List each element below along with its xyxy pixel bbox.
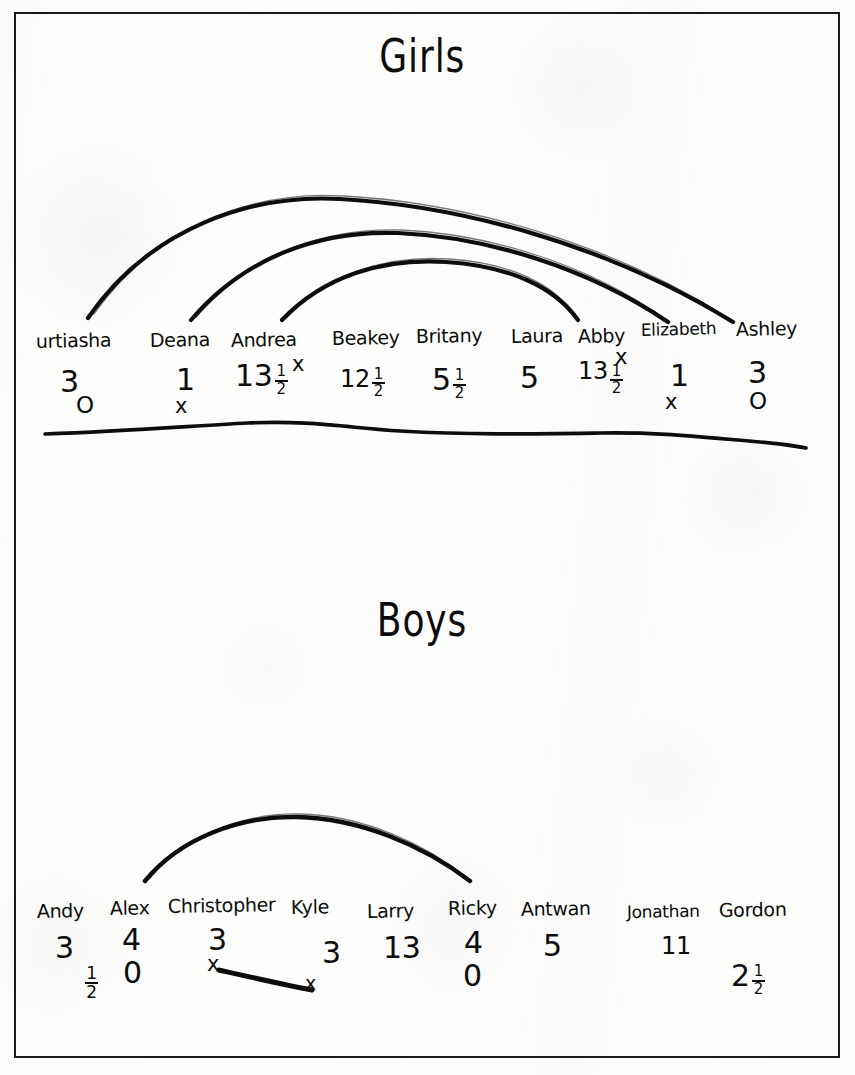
girls-frac-den-7: 2 [610,379,623,396]
boys-value-8-number: 11 [661,932,691,960]
girls-name-5: Britany [416,324,483,347]
girls-value-9-number: 3 [748,355,767,390]
girls-below-8: x [665,390,677,414]
worksheet-page: Girls urtiasha Deana Andrea Beakey Brita… [0,0,855,1075]
girls-value-6: 5 [520,360,539,395]
boys-value-2-number: 4 [122,922,141,957]
boys-name-1: Andy [37,899,85,922]
boys-frac-den-1: 2 [85,982,98,1001]
girls-name-8: Elizabeth [640,318,716,340]
boys-value-1: 3 [55,930,74,965]
boys-below-2: 0 [123,955,142,990]
boys-name-7: Antwan [521,897,591,920]
boys-mark-4: x [305,972,316,994]
boys-value-5: 13 [383,930,421,965]
boys-name-9: Gordon [719,898,787,921]
girls-value-8: 1 [670,358,689,393]
boys-value-8: 11 [661,932,691,960]
girls-frac-den-5: 2 [453,384,466,401]
girls-name-2: Deana [150,328,211,351]
girls-frac-num-5: 1 [455,368,464,383]
boys-value-7-number: 5 [543,928,562,963]
boys-name-4: Kyle [291,895,329,918]
girls-below-2: x [175,394,187,418]
boys-frac-den-9: 2 [752,980,765,997]
boys-value-2: 4 [122,922,141,957]
girls-value-4-number: 12 [340,365,370,393]
girls-name-3: Andrea [231,328,297,351]
boys-name-3: Christopher [168,893,276,917]
girls-value-8-number: 1 [670,358,689,393]
boys-frac-num-9: 1 [754,964,763,979]
boys-value-9: 212 [731,958,765,994]
girls-name-1: urtiasha [36,328,112,352]
boys-value-1-number: 3 [55,930,74,965]
girls-value-5-number: 5 [432,362,451,397]
boys-name-5: Larry [367,899,415,922]
girls-name-4: Beakey [332,326,400,349]
girls-name-9: Ashley [736,317,798,340]
boys-mark-3: x [207,952,219,976]
girls-below-9: O [749,388,767,414]
girls-name-7: Abby [578,324,626,347]
girls-value-4-fraction: 12 [372,367,385,400]
boys-section-title: Boys [377,593,467,646]
girls-value-3: 1312 [235,358,288,394]
girls-frac-den-3: 2 [275,380,288,397]
boys-value-1-fraction: 12 [83,962,98,999]
girls-section-title: Girls [379,29,465,82]
boys-frac-num-1: 1 [86,965,97,982]
boys-value-7: 5 [543,928,562,963]
girls-value-3-fraction: 12 [275,364,288,397]
girls-below-1: O [76,392,94,418]
girls-value-2: 1 [176,362,195,397]
girls-value-5-fraction: 12 [453,368,466,401]
girls-frac-num-4: 1 [374,367,383,382]
boys-name-2: Alex [110,896,150,919]
girls-value-9: 3 [748,355,767,390]
girls-frac-num-3: 1 [276,364,285,379]
girls-value-5: 512 [432,362,466,398]
girls-name-6: Laura [511,324,564,347]
boys-value-4: 3 [322,935,341,970]
boys-below-6: 0 [463,958,482,993]
girls-frac-den-4: 2 [372,382,385,399]
girls-value-2-number: 1 [176,362,195,397]
girls-mark-3: x [292,352,304,376]
girls-value-3-number: 13 [235,358,273,393]
girls-mark-7: x [615,345,627,369]
boys-value-6-number: 4 [464,925,483,960]
boys-value-9-number: 2 [731,958,750,993]
boys-value-6: 4 [464,925,483,960]
boys-frac-1: 12 [85,965,98,1002]
boys-name-8: Jonathan [627,901,700,922]
boys-name-6: Ricky [448,896,497,919]
boys-value-9-fraction: 12 [752,964,765,997]
girls-value-7-number: 13 [578,357,608,385]
boys-value-5-number: 13 [383,930,421,965]
girls-value-4: 1212 [340,364,385,397]
girls-value-6-number: 5 [520,360,539,395]
boys-value-4-number: 3 [322,935,341,970]
